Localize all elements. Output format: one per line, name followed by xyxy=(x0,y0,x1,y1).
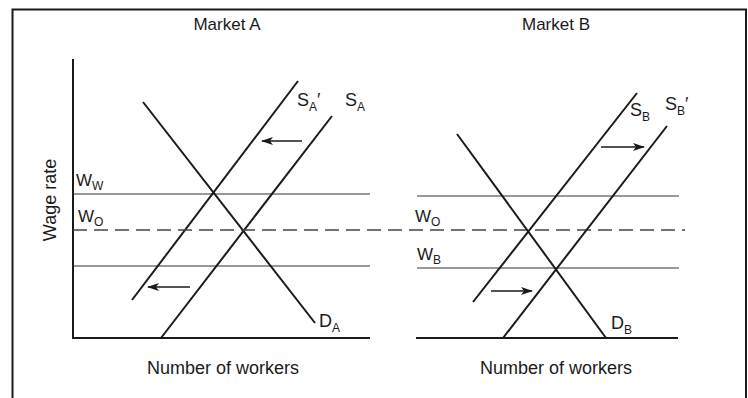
label-sb: SB xyxy=(630,100,650,124)
label-sb-prime: SB′ xyxy=(665,94,689,118)
market-a-x-axis-label: Number of workers xyxy=(147,358,299,378)
market-b-x-axis-label: Number of workers xyxy=(480,358,632,378)
demand-curve-da xyxy=(143,102,315,323)
market-a-title: Market A xyxy=(193,15,261,34)
label-sa: SA xyxy=(345,90,365,114)
y-axis-label: Wage rate xyxy=(40,159,60,241)
market-b-title: Market B xyxy=(522,15,590,34)
market-b-wo-label: WO xyxy=(415,207,440,229)
label-da: DA xyxy=(319,311,340,335)
label-db: DB xyxy=(611,313,632,337)
market-a-wo-label: WO xyxy=(78,207,103,229)
labor-market-diagram: Wage rate Market A WW WO SA′ SA DA xyxy=(0,0,748,398)
figure-frame xyxy=(13,10,747,398)
market-b-panel: Market B WO WB SB SB′ DB Number of worke… xyxy=(415,15,689,378)
demand-curve-db xyxy=(457,134,606,338)
market-a-panel: Market A WW WO SA′ SA DA Number of work xyxy=(73,15,370,378)
label-sa-prime: SA′ xyxy=(297,90,321,114)
market-a-ww-label: WW xyxy=(76,171,104,193)
market-b-wb-label: WB xyxy=(417,245,441,267)
